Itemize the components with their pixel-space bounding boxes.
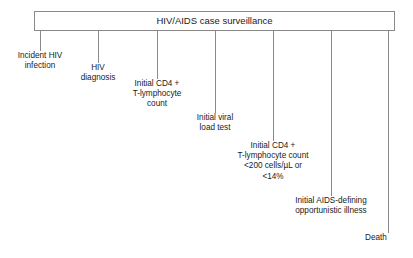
event-label-initial-viral-load-test: Initial viral load test bbox=[185, 113, 245, 133]
event-tick-initial-cd4-t-lymphocyte-count bbox=[157, 31, 158, 79]
surveillance-bar-label: HIV/AIDS case surveillance bbox=[156, 16, 272, 26]
event-label-initial-cd4-below-200: Initial CD4 + T-lymphocyte count <200 ce… bbox=[220, 141, 326, 182]
event-tick-initial-viral-load-test bbox=[215, 31, 216, 113]
event-tick-incident-hiv-infection bbox=[40, 31, 41, 51]
event-tick-initial-cd4-below-200 bbox=[273, 31, 274, 141]
event-label-death: Death bbox=[344, 233, 408, 243]
event-tick-hiv-diagnosis bbox=[98, 31, 99, 63]
event-label-initial-aids-defining-illness: Initial AIDS-defining opportunistic illn… bbox=[278, 196, 384, 216]
surveillance-bar: HIV/AIDS case surveillance bbox=[34, 11, 395, 31]
event-tick-death bbox=[388, 31, 389, 233]
event-label-hiv-diagnosis: HIV diagnosis bbox=[67, 63, 129, 83]
event-tick-initial-aids-defining-illness bbox=[331, 31, 332, 196]
hiv-aids-surveillance-timeline-diagram: HIV/AIDS case surveillance Incident HIV … bbox=[0, 0, 413, 258]
event-label-initial-cd4-t-lymphocyte-count: Initial CD4 + T-lymphocyte count bbox=[122, 79, 192, 110]
